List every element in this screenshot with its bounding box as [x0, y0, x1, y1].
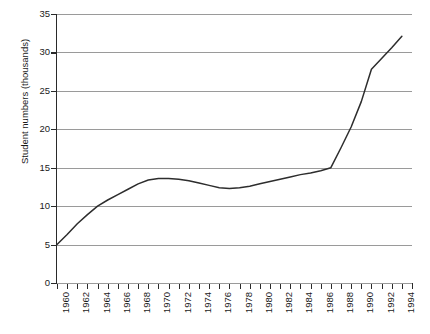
x-axis-tick-label: 1960 [61, 292, 71, 332]
plot-area [57, 14, 412, 283]
x-axis-tick-label: 1994 [406, 292, 416, 332]
x-axis-tickmark [169, 284, 170, 289]
y-axis-tickmark [51, 168, 57, 169]
x-axis-tickmark [341, 284, 342, 289]
x-axis-tickmark [412, 284, 413, 289]
x-axis-tickmark [321, 284, 322, 289]
x-axis-tickmark [158, 284, 159, 289]
x-axis-tick-label: 1982 [284, 292, 294, 332]
x-axis-tickmark [98, 284, 99, 289]
x-axis-tickmark [280, 284, 281, 289]
y-axis-tickmark [51, 14, 57, 15]
x-axis-tick-label: 1978 [244, 292, 254, 332]
y-axis-tickmark [51, 129, 57, 130]
x-axis-tickmark [311, 284, 312, 289]
x-axis-tickmark [128, 284, 129, 289]
y-axis-tick-label: 15 [30, 163, 50, 173]
x-axis-tickmark [219, 284, 220, 289]
y-axis-tickmark [51, 52, 57, 53]
x-axis-tickmark [371, 284, 372, 289]
x-axis-tick-label: 1980 [264, 292, 274, 332]
x-axis-tickmark [250, 284, 251, 289]
x-axis-tickmark [351, 284, 352, 289]
chart-figure: Student numbers (thousands) 051015202530… [0, 0, 430, 334]
gridline [57, 283, 412, 284]
y-axis-tickmark [51, 245, 57, 246]
x-axis-tickmark [138, 284, 139, 289]
x-axis-tickmark [148, 284, 149, 289]
x-axis-tickmark [108, 284, 109, 289]
x-axis-tickmark [402, 284, 403, 289]
x-axis-tick-label: 1966 [122, 292, 132, 332]
x-axis-tickmark [240, 284, 241, 289]
x-axis-tickmark [67, 284, 68, 289]
y-axis-tick-label: 20 [30, 124, 50, 134]
x-axis-tick-label: 1964 [102, 292, 112, 332]
x-axis-tick-label: 1984 [304, 292, 314, 332]
x-axis-tick-label: 1988 [345, 292, 355, 332]
x-axis-tickmark [270, 284, 271, 289]
x-axis-tick-label: 1968 [142, 292, 152, 332]
x-axis-tick-label: 1962 [81, 292, 91, 332]
y-axis-tick-label: 30 [30, 47, 50, 57]
y-axis-tickmark [51, 206, 57, 207]
x-axis-tickmark [57, 284, 58, 289]
line-series-student-numbers [57, 14, 412, 283]
y-axis-tick-label: 5 [30, 240, 50, 250]
x-axis-tick-label: 1986 [325, 292, 335, 332]
x-axis-tickmark [77, 284, 78, 289]
x-axis-tickmark [199, 284, 200, 289]
x-axis-tickmark [331, 284, 332, 289]
y-axis-tickmark [51, 91, 57, 92]
x-axis-tickmark [382, 284, 383, 289]
clipped-caption-text [0, 0, 430, 3]
x-axis-tickmark [229, 284, 230, 289]
x-axis-tick-label: 1992 [386, 292, 396, 332]
x-axis-tick-label: 1990 [365, 292, 375, 332]
x-axis-tickmark [179, 284, 180, 289]
x-axis-tickmark [392, 284, 393, 289]
x-axis-tickmark [300, 284, 301, 289]
x-axis-tickmark [290, 284, 291, 289]
x-axis-tick-label: 1974 [203, 292, 213, 332]
x-axis-tick-label: 1976 [223, 292, 233, 332]
y-axis-tick-label: 25 [30, 86, 50, 96]
x-axis-tickmark [87, 284, 88, 289]
x-axis-tickmark [260, 284, 261, 289]
x-axis-tickmark [189, 284, 190, 289]
y-axis-tick-label: 10 [30, 201, 50, 211]
y-axis-tick-labels: 05101520253035 [28, 0, 50, 334]
x-axis-tickmark [209, 284, 210, 289]
y-axis-tick-label: 35 [30, 9, 50, 19]
y-axis-tick-label: 0 [30, 278, 50, 288]
x-axis-tickmark [361, 284, 362, 289]
x-axis-tickmark [118, 284, 119, 289]
x-axis-tick-label: 1972 [183, 292, 193, 332]
x-axis-tick-label: 1970 [162, 292, 172, 332]
